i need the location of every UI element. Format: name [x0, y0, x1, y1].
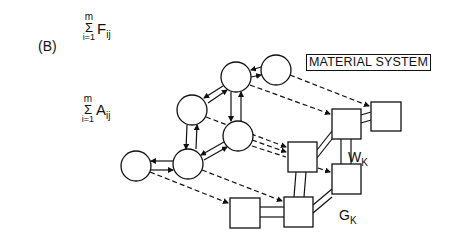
square-node [288, 142, 317, 172]
circle-node [173, 149, 203, 179]
circle-node [221, 62, 251, 92]
square-node [230, 198, 260, 228]
circle-node [261, 55, 291, 85]
square-node [371, 102, 401, 131]
circle-node [223, 121, 253, 151]
square-node [284, 197, 313, 227]
circle-node [177, 95, 207, 125]
network-diagram [0, 0, 460, 239]
circle-node [121, 151, 151, 181]
square-node [332, 109, 361, 139]
square-node [332, 164, 361, 194]
